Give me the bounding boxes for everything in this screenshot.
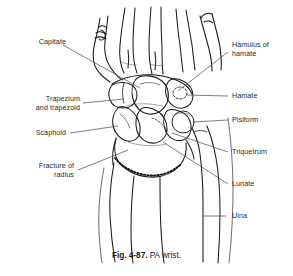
label-trapezium-and-trapezoid: Trapezium and trapezoid: [2, 95, 80, 112]
label-scaphoid: Scaphoid: [8, 129, 66, 138]
leader-triquetrum: [172, 133, 228, 152]
leader-trapezium-trapezoid: [83, 99, 124, 103]
label-pisiform: Pisiform: [232, 116, 290, 125]
leader-hamate: [186, 95, 228, 96]
figure-container: Capitate Trapezium and trapezoid Scaphoi…: [0, 0, 293, 276]
label-triquetrum: Triquetrum: [232, 148, 292, 157]
label-lunate: Lunate: [232, 180, 290, 189]
figure-description: PA wrist.: [150, 251, 181, 260]
leader-hamulus-of-hamate: [178, 52, 228, 91]
label-fracture-of-radius: Fracture of radius: [6, 162, 74, 179]
leader-scaphoid: [70, 126, 118, 133]
label-hamate: Hamate: [232, 92, 290, 101]
label-capitate: Capitate: [8, 38, 66, 47]
label-ulna: Ulna: [232, 212, 290, 221]
leader-pisiform: [193, 120, 228, 122]
leader-fracture-of-radius: [78, 150, 128, 170]
figure-number: Fig. 4-87.: [112, 251, 148, 260]
label-hamulus-of-hamate: Hamulus of hamate: [232, 41, 292, 58]
bone-outlines: [93, 7, 233, 263]
figure-caption: Fig. 4-87. PA wrist.: [0, 251, 293, 260]
